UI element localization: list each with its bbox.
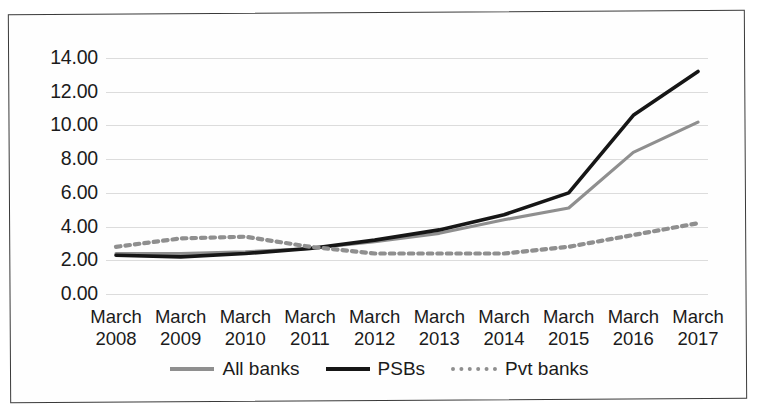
legend-swatch-pvt-banks-icon — [451, 367, 497, 371]
x-axis-tick-label-part: March — [596, 306, 670, 328]
legend-item-all-banks[interactable]: All banks — [170, 358, 299, 380]
x-axis-tick-label-part: March — [273, 306, 347, 328]
x-axis-tick-label-part: 2010 — [208, 328, 282, 350]
x-axis-tick-label: March2015 — [532, 306, 606, 350]
legend-label-pvt-banks: Pvt banks — [505, 358, 588, 380]
legend-label-all-banks: All banks — [222, 358, 299, 380]
x-axis-tick-label-part: 2017 — [661, 328, 735, 350]
x-axis-tick-label: March2012 — [338, 306, 412, 350]
x-axis-tick-label: March2013 — [402, 306, 476, 350]
x-axis-tick-label-part: 2011 — [273, 328, 347, 350]
legend-item-pvt-banks[interactable]: Pvt banks — [451, 358, 588, 380]
legend-item-psbs[interactable]: PSBs — [326, 358, 426, 380]
x-axis-tick-label: March2011 — [273, 306, 347, 350]
x-axis-tick-label-part: 2013 — [402, 328, 476, 350]
x-axis-tick-label-part: March — [338, 306, 412, 328]
x-axis-tick-label-part: 2016 — [596, 328, 670, 350]
x-axis-tick-label-part: 2008 — [79, 328, 153, 350]
x-axis-tick-label: March2009 — [144, 306, 218, 350]
chart-page: 14.0012.0010.008.006.004.002.000.00 Marc… — [0, 0, 759, 415]
x-axis-tick-label: March2008 — [79, 306, 153, 350]
series-lines — [0, 0, 759, 415]
x-axis-tick-label: March2014 — [467, 306, 541, 350]
x-axis-tick-label-part: 2012 — [338, 328, 412, 350]
legend-swatch-psbs-icon — [326, 367, 370, 372]
x-axis-tick-label-part: 2014 — [467, 328, 541, 350]
x-axis-tick-label-part: March — [532, 306, 606, 328]
x-axis-tick-label-part: March — [661, 306, 735, 328]
x-axis-tick-label-part: March — [144, 306, 218, 328]
x-axis-tick-label-part: March — [208, 306, 282, 328]
x-axis-tick-label-part: March — [467, 306, 541, 328]
series-line-psbs — [116, 72, 698, 257]
x-axis-tick-label: March2017 — [661, 306, 735, 350]
x-axis-tick-label: March2016 — [596, 306, 670, 350]
x-axis-tick-label-part: March — [402, 306, 476, 328]
legend-swatch-all-banks-icon — [170, 367, 214, 371]
x-axis-tick-label-part: 2015 — [532, 328, 606, 350]
x-axis-tick-label-part: 2009 — [144, 328, 218, 350]
x-axis-tick-label: March2010 — [208, 306, 282, 350]
chart-legend: All banks PSBs Pvt banks — [0, 358, 759, 380]
chart-plot-area: 14.0012.0010.008.006.004.002.000.00 Marc… — [0, 0, 759, 415]
legend-label-psbs: PSBs — [378, 358, 426, 380]
x-axis-tick-label-part: March — [79, 306, 153, 328]
